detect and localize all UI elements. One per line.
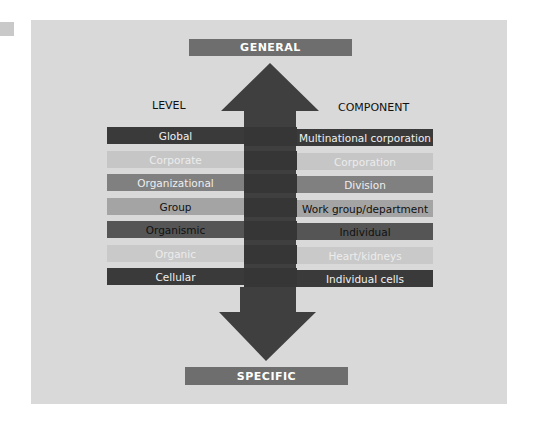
level-header: LEVEL <box>152 99 186 112</box>
down-arrow-icon <box>219 287 316 361</box>
shaft-band <box>244 127 297 146</box>
specific-banner: SPECIFIC <box>185 367 348 385</box>
component-bar-4: Work group/department <box>297 200 433 217</box>
shaft-band <box>244 268 297 287</box>
level-bar-corporate: Corporate <box>107 151 244 168</box>
level-bar-organismic: Organismic <box>107 221 244 238</box>
component-bar-2: Corporation <box>297 153 433 170</box>
shaft-band <box>244 198 297 217</box>
level-bar-organic: Organic <box>107 245 244 262</box>
level-bar-group: Group <box>107 198 244 215</box>
component-header: COMPONENT <box>338 101 409 114</box>
level-bar-organizational: Organizational <box>107 174 244 191</box>
component-bar-7: Individual cells <box>297 270 433 287</box>
shaft-band <box>244 221 297 240</box>
level-bar-cellular: Cellular <box>107 268 244 285</box>
shaft-band <box>244 245 297 264</box>
level-bar-global: Global <box>107 127 244 144</box>
component-bar-6: Heart/kidneys <box>297 247 433 264</box>
component-bar-5: Individual <box>297 223 433 240</box>
general-banner: GENERAL <box>189 39 352 56</box>
component-bar-3: Division <box>297 176 433 193</box>
shaft-band <box>244 174 297 193</box>
component-bar-1: Multinational corporation <box>297 129 433 146</box>
shaft-band <box>244 151 297 170</box>
